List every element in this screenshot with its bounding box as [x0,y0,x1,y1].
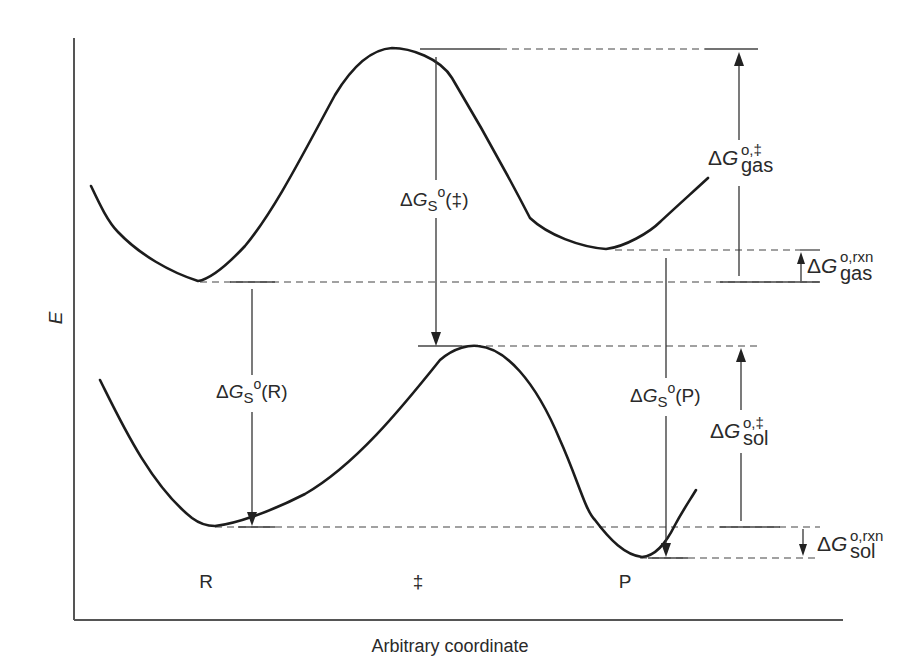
label-dGs-p: ΔGSo(P) [630,380,701,410]
svg-text:gas: gas [840,262,872,284]
arrowhead-up-icon [734,52,744,66]
arrowhead-down-icon [799,544,807,556]
x-axis-label: Arbitrary coordinate [371,636,528,656]
svg-text:ΔG: ΔG [817,532,847,555]
svg-text:ΔGSo(‡): ΔGSo(‡) [400,184,469,214]
y-axis-label: E [45,311,66,324]
svg-text:sol: sol [850,540,876,562]
label-dGs-ts: ΔGSo(‡) [400,184,469,214]
marker-product: P [619,571,632,592]
label-dGs-r: ΔGSo(R) [216,376,288,406]
arrowhead-down-icon [661,543,671,557]
label-dG-sol-reaction: ΔG o,rxn sol [817,527,883,562]
svg-text:gas: gas [741,154,773,176]
svg-text:ΔG: ΔG [807,254,837,277]
svg-text:ΔG: ΔG [710,419,740,442]
svg-text:ΔG: ΔG [708,146,738,169]
arrowhead-down-icon [431,332,441,346]
svg-text:sol: sol [743,427,769,449]
gas-phase-curve [91,48,708,281]
label-dG-gas-reaction: ΔG o,rxn gas [807,248,873,284]
label-dG-sol-activation: ΔG o,‡ sol [710,414,769,449]
energy-profile-diagram: E Arbitrary coordinate R ‡ P [0,0,923,669]
svg-text:ΔGSo(R): ΔGSo(R) [216,376,288,406]
svg-text:ΔGSo(P): ΔGSo(P) [630,380,701,410]
marker-transition-state: ‡ [413,571,424,592]
marker-reactant: R [199,571,213,592]
label-dG-gas-activation: ΔG o,‡ gas [708,141,773,176]
arrowhead-up-icon [797,252,805,264]
solution-phase-curve [100,346,696,557]
arrowhead-up-icon [736,348,746,362]
